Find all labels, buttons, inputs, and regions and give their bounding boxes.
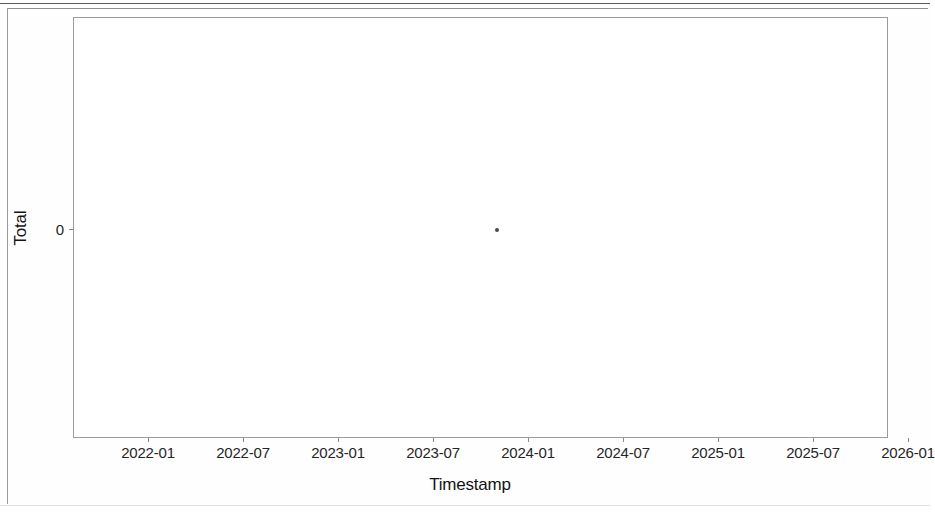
x-tick-label: 2022-07: [216, 444, 270, 461]
x-tick-mark: [623, 438, 624, 442]
x-tick-mark: [338, 438, 339, 442]
x-axis-label: Timestamp: [0, 475, 930, 495]
x-tick-mark: [718, 438, 719, 442]
x-tick-mark: [433, 438, 434, 442]
y-axis-label: Total: [11, 211, 31, 246]
x-tick-label: 2023-07: [406, 444, 460, 461]
x-tick-mark: [243, 438, 244, 442]
x-tick-label: 2024-01: [501, 444, 555, 461]
x-tick-label: 2022-01: [121, 444, 175, 461]
x-tick-mark: [148, 438, 149, 442]
x-tick-label: 2025-07: [786, 444, 840, 461]
x-tick-mark: [528, 438, 529, 442]
x-axis-label-text: Timestamp: [429, 475, 511, 495]
plot-frame: [73, 17, 888, 438]
x-tick-label: 2025-01: [691, 444, 745, 461]
x-tick-mark: [813, 438, 814, 442]
y-tick-mark: [69, 229, 73, 230]
data-point: [495, 228, 499, 232]
x-tick-label: 2024-07: [596, 444, 650, 461]
plot-canvas: [74, 18, 887, 437]
x-tick-label: 2023-01: [311, 444, 365, 461]
x-tick-mark: [908, 438, 909, 442]
x-tick-label: 2026-01: [881, 444, 935, 461]
y-tick-label: 0: [56, 221, 64, 238]
